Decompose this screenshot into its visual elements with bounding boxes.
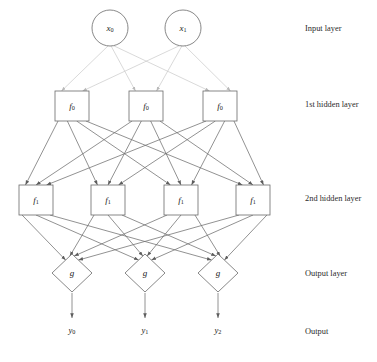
input-layer-nodes: x0x1	[92, 10, 201, 46]
node-h2-3: f1	[236, 185, 270, 215]
node-h2-1: f1	[91, 185, 125, 215]
connection-edge	[50, 215, 212, 260]
node-h1-1: f0	[129, 91, 163, 121]
edges-hidden1-to-hidden2	[25, 121, 263, 185]
node-h2-0: f1	[19, 185, 53, 215]
connection-edge	[67, 121, 97, 185]
connection-edge	[122, 215, 216, 256]
connection-edge	[86, 121, 243, 185]
node-x1: x1	[165, 10, 201, 46]
connection-edge	[108, 215, 143, 256]
caption-hidden-layer-2: 2nd hidden layer	[305, 194, 361, 203]
connection-edge	[83, 44, 183, 91]
caption-hidden-layer-1: 1st hidden layer	[305, 100, 359, 109]
connection-edge	[151, 215, 253, 260]
output-label-y0: y0	[68, 325, 76, 336]
connection-edge	[77, 121, 171, 185]
node-g2: g	[198, 254, 238, 292]
connection-edge	[183, 44, 231, 91]
node-g0-label: g	[70, 268, 75, 278]
edges-output-to-values	[72, 293, 218, 318]
node-g1-label: g	[143, 268, 148, 278]
connection-edge	[47, 121, 207, 185]
edges-hidden2-to-output	[22, 215, 267, 260]
node-h1-2: f0	[203, 91, 237, 121]
hidden-layer-2-nodes: f1f1f1f1	[19, 185, 270, 215]
node-x0: x0	[92, 10, 128, 46]
output-label-y1: y1	[141, 325, 149, 336]
connection-edge	[110, 44, 209, 91]
connection-edge	[22, 215, 66, 260]
network-svg: x0x1 f0f0f0 f1f1f1f1 ggg y0y1y2 Input la…	[0, 0, 377, 362]
connection-edge	[78, 215, 239, 260]
connection-edge	[36, 215, 139, 260]
connection-edge	[74, 215, 167, 256]
connection-edge	[36, 121, 132, 185]
neural-network-diagram: x0x1 f0f0f0 f1f1f1f1 ggg y0y1y2 Input la…	[0, 0, 377, 362]
caption-output: Output	[305, 327, 329, 336]
output-label-y2: y2	[214, 325, 222, 336]
connection-edge	[119, 121, 216, 185]
connection-edge	[110, 44, 135, 91]
node-h2-2: f1	[164, 185, 198, 215]
layer-captions: Input layer1st hidden layer2nd hidden la…	[305, 24, 361, 336]
node-g0: g	[52, 254, 92, 292]
connection-edge	[151, 121, 181, 185]
connection-edge	[224, 215, 267, 260]
node-g1: g	[125, 254, 165, 292]
hidden-layer-1-nodes: f0f0f0	[55, 91, 237, 121]
node-h1-0: f0	[55, 91, 89, 121]
connection-edge	[160, 121, 253, 185]
connection-edge	[61, 44, 110, 91]
connection-edge	[25, 121, 58, 185]
output-value-labels: y0y1y2	[68, 325, 222, 336]
edges-input-to-hidden1	[61, 44, 230, 91]
caption-input-layer: Input layer	[305, 24, 342, 33]
connection-edge	[108, 121, 141, 185]
caption-output-layer: Output layer	[305, 269, 347, 278]
node-g2-label: g	[216, 268, 221, 278]
